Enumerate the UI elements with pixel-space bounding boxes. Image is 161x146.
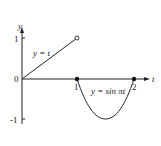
t-axis-label: t <box>152 74 155 84</box>
t-axis-arrow-icon <box>144 77 150 81</box>
line-annotation: y = t <box>32 48 51 58</box>
sine-annotation: y = sin πt <box>90 86 126 96</box>
chart-canvas: y t 1 0 -1 1 2 y = t y = sin πt <box>0 0 161 146</box>
y-tick-label-1: 1 <box>14 34 19 44</box>
y-tick-label-neg1: -1 <box>10 115 18 125</box>
t-tick-label-2: 2 <box>132 82 137 92</box>
open-endpoint-icon <box>75 36 79 40</box>
piecewise-function-graph: y t 1 0 -1 1 2 y = t y = sin πt <box>0 0 161 146</box>
sine-curve <box>77 79 134 119</box>
y-axis-label: y <box>17 21 22 31</box>
t-tick-label-1: 1 <box>74 82 79 92</box>
filled-point-t1-icon <box>75 77 79 81</box>
filled-point-t2-icon <box>132 77 136 81</box>
y-tick-label-0: 0 <box>14 74 19 84</box>
line-y-equals-t <box>22 39 76 79</box>
